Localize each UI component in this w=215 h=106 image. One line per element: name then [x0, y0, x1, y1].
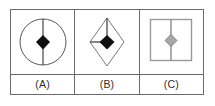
figures-row	[11, 10, 203, 75]
rhombus-with-diamond-figure	[76, 13, 138, 71]
inner-diamond	[99, 35, 114, 50]
figure-cell-a	[11, 10, 75, 74]
labels-row: (A) (B) (C)	[11, 75, 203, 94]
figure-label-c: (C)	[140, 75, 203, 94]
figure-label-a: (A)	[11, 75, 75, 94]
inner-diamond	[36, 35, 50, 50]
inner-diamond	[165, 35, 177, 47]
square-with-diamond-figure	[140, 13, 202, 71]
figure-cell-c	[140, 10, 203, 74]
figure-cell-b	[75, 10, 139, 74]
figure-table: (A) (B) (C)	[10, 9, 204, 95]
circle-with-diamond-figure	[12, 13, 74, 71]
figure-label-b: (B)	[75, 75, 139, 94]
